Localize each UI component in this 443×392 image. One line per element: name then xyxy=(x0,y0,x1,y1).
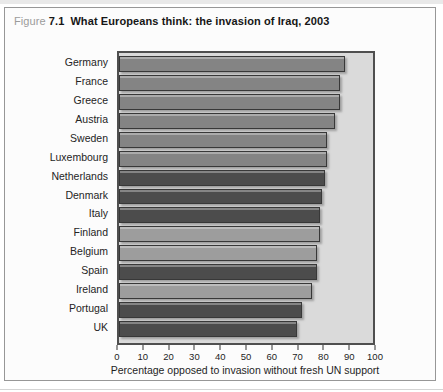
figure-prefix: Figure xyxy=(14,15,46,27)
tick-label-30: 30 xyxy=(189,351,200,362)
tick-label-50: 50 xyxy=(241,351,252,362)
country-label-france: France xyxy=(5,75,113,87)
figure-number: 7.1 xyxy=(49,15,65,27)
tick-mark-70 xyxy=(297,345,298,350)
country-label-greece: Greece xyxy=(5,94,113,106)
country-label-denmark: Denmark xyxy=(5,189,113,201)
tick-label-0: 0 xyxy=(114,351,119,362)
chart-plot-area xyxy=(117,51,375,345)
figure-box: Figure7.1What Europeans think: the invas… xyxy=(4,7,436,381)
x-axis-tick-marks xyxy=(117,345,375,350)
country-label-belgium: Belgium xyxy=(5,245,113,257)
figure-heading: What Europeans think: the invasion of Ir… xyxy=(70,15,329,27)
tick-mark-0 xyxy=(117,345,118,350)
tick-mark-30 xyxy=(194,345,195,350)
country-label-netherlands: Netherlands xyxy=(5,170,113,182)
tick-mark-20 xyxy=(168,345,169,350)
tick-label-80: 80 xyxy=(318,351,329,362)
country-label-germany: Germany xyxy=(5,56,113,68)
tick-label-70: 70 xyxy=(292,351,303,362)
tick-mark-80 xyxy=(323,345,324,350)
bar-spain xyxy=(119,264,317,280)
country-label-luxembourg: Luxembourg xyxy=(5,151,113,163)
country-label-spain: Spain xyxy=(5,264,113,276)
bar-portugal xyxy=(119,302,302,318)
bar-france xyxy=(119,75,340,91)
country-label-ireland: Ireland xyxy=(5,283,113,295)
tick-label-20: 20 xyxy=(163,351,174,362)
page-edge-shade xyxy=(0,0,443,4)
bar-sweden xyxy=(119,132,327,148)
tick-mark-50 xyxy=(246,345,247,350)
tick-label-100: 100 xyxy=(367,351,383,362)
x-axis-tick-labels: 0102030405060708090100 xyxy=(117,351,375,362)
x-axis-title: Percentage opposed to invasion without f… xyxy=(65,364,425,376)
bar-italy xyxy=(119,207,320,223)
bar-belgium xyxy=(119,245,317,261)
country-label-uk: UK xyxy=(5,321,113,333)
tick-mark-100 xyxy=(375,345,376,350)
country-label-austria: Austria xyxy=(5,113,113,125)
bar-ireland xyxy=(119,283,312,299)
country-label-italy: Italy xyxy=(5,207,113,219)
page-edge-line xyxy=(0,389,443,390)
tick-mark-10 xyxy=(142,345,143,350)
bar-austria xyxy=(119,113,335,129)
tick-label-90: 90 xyxy=(344,351,355,362)
tick-label-10: 10 xyxy=(138,351,149,362)
bar-uk xyxy=(119,321,297,337)
bar-germany xyxy=(119,56,345,72)
country-label-portugal: Portugal xyxy=(5,302,113,314)
tick-label-40: 40 xyxy=(215,351,226,362)
bar-netherlands xyxy=(119,170,325,186)
tick-mark-60 xyxy=(271,345,272,350)
tick-mark-90 xyxy=(349,345,350,350)
bar-denmark xyxy=(119,189,322,205)
tick-label-60: 60 xyxy=(267,351,278,362)
country-labels-column: GermanyFranceGreeceAustriaSwedenLuxembou… xyxy=(5,51,113,345)
bar-finland xyxy=(119,226,320,242)
figure-title: Figure7.1What Europeans think: the invas… xyxy=(5,8,435,34)
country-label-sweden: Sweden xyxy=(5,132,113,144)
bar-luxembourg xyxy=(119,151,327,167)
country-label-finland: Finland xyxy=(5,226,113,238)
tick-mark-40 xyxy=(220,345,221,350)
bar-greece xyxy=(119,94,340,110)
